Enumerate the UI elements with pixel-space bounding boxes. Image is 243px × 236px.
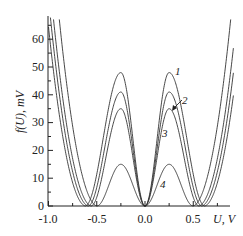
curves (49, 18, 234, 206)
curve-3 (54, 19, 234, 206)
curve-label-2: 2 (182, 94, 188, 106)
y-tick-label: 30 (32, 115, 44, 129)
y-tick-label: 40 (32, 88, 44, 102)
x-tick-label: -1.0 (39, 212, 58, 226)
y-axis-label: f(U), mV (13, 89, 27, 133)
x-axis-label: U, V (213, 212, 237, 226)
curve-label-3: 3 (161, 127, 168, 139)
y-ticks (48, 25, 53, 206)
curve-label-1: 1 (175, 65, 181, 77)
x-tick-label: 0.5 (186, 212, 201, 226)
y-tick-label: 50 (32, 60, 44, 74)
curve-4 (59, 19, 230, 206)
x-tick-label: 0.0 (138, 212, 153, 226)
y-tick-label: 10 (32, 171, 44, 185)
curve-1 (49, 27, 234, 206)
y-tick-label: 20 (32, 143, 44, 157)
curve-2 (50, 18, 233, 206)
chart: 60 50 40 30 20 10 0 -1.0 -0.5 0.0 0.5 U,… (0, 0, 243, 236)
x-tick-label: -0.5 (88, 212, 107, 226)
curve-label-4: 4 (160, 178, 166, 190)
y-tick-label: 60 (32, 32, 44, 46)
y-tick-label: 0 (38, 199, 44, 213)
